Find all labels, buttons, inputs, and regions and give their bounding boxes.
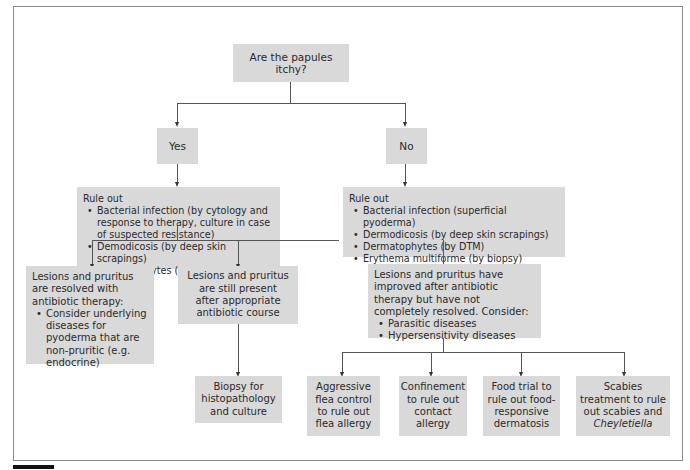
- outcome-improved-list: Parasitic diseases Hypersensitivity dise…: [374, 318, 535, 343]
- list-item: Hypersensitivity diseases: [388, 330, 535, 342]
- root-question: Are the papules itchy?: [233, 51, 349, 75]
- no-ruleout-heading: Rule out: [349, 193, 559, 205]
- connector: [443, 338, 444, 352]
- no-label: No: [399, 140, 413, 152]
- connector: [177, 164, 178, 183]
- no-ruleout-box: Rule out Bacterial infection (superficia…: [343, 187, 565, 257]
- arrow-icon: [403, 122, 407, 127]
- action-scabies-italic: Cheyletiella: [594, 418, 653, 429]
- action-food-text: Food trial to rule out food-responsive d…: [487, 381, 556, 430]
- list-item: Bacterial infection (by cytology and res…: [97, 205, 274, 241]
- outcome-improved-text: Lesions and pruritus have improved after…: [374, 269, 535, 318]
- connector: [342, 352, 625, 353]
- no-box: No: [386, 128, 427, 164]
- connector: [92, 240, 93, 265]
- connector: [624, 352, 625, 373]
- action-biopsy-text: Biopsy for histopathology and culture: [199, 381, 278, 418]
- outcome-resolved-text: Lesions and pruritus are resolved with a…: [32, 271, 148, 308]
- yes-box: Yes: [157, 128, 198, 164]
- connector: [342, 352, 343, 373]
- root-question-box: Are the papules itchy?: [233, 44, 349, 82]
- footer-bar: [13, 465, 54, 469]
- yes-ruleout-box: Rule out Bacterial infection (by cytolog…: [77, 187, 280, 269]
- connector: [238, 240, 239, 265]
- outcome-resolved-list: Consider underlying diseases for pyoderm…: [32, 308, 148, 369]
- outcome-still-present-box: Lesions and pruritus are still present a…: [178, 266, 298, 324]
- yes-ruleout-heading: Rule out: [83, 193, 274, 205]
- connector: [238, 324, 239, 373]
- connector: [177, 103, 178, 123]
- outcome-still-present-text: Lesions and pruritus are still present a…: [186, 270, 290, 319]
- arrow-icon: [175, 122, 179, 127]
- connector: [405, 103, 406, 123]
- connector: [431, 352, 432, 373]
- outcome-resolved-box: Lesions and pruritus are resolved with a…: [26, 266, 154, 364]
- action-flea-box: Aggressive flea control to rule out flea…: [307, 376, 380, 436]
- connector: [177, 225, 178, 240]
- connector: [443, 240, 444, 265]
- list-item: Bacterial infection (superficial pyoderm…: [363, 205, 559, 229]
- connector: [405, 164, 406, 183]
- action-flea-text: Aggressive flea control to rule out flea…: [311, 381, 376, 430]
- connector: [290, 82, 291, 103]
- list-item: Parasitic diseases: [388, 318, 535, 330]
- action-biopsy-box: Biopsy for histopathology and culture: [195, 376, 282, 423]
- list-item: Demodicosis (by deep skin scrapings): [97, 241, 274, 265]
- action-confinement-box: Confinement to rule out contact allergy: [399, 376, 467, 436]
- connector: [521, 352, 522, 373]
- list-item: Consider underlying diseases for pyoderm…: [46, 308, 148, 369]
- outcome-improved-box: Lesions and pruritus have improved after…: [368, 264, 541, 338]
- yes-label: Yes: [169, 140, 186, 152]
- action-food-box: Food trial to rule out food-responsive d…: [483, 376, 560, 436]
- connector: [92, 240, 339, 241]
- action-scabies-prefix: Scabies treatment to rule out scabies an…: [580, 381, 666, 417]
- list-item: Dermatophytes (by DTM): [363, 241, 559, 253]
- action-scabies-text: Scabies treatment to rule out scabies an…: [580, 381, 666, 430]
- connector: [177, 103, 405, 104]
- list-item: Dermodicosis (by deep skin scrapings): [363, 229, 559, 241]
- action-confinement-text: Confinement to rule out contact allergy: [401, 381, 465, 430]
- action-scabies-box: Scabies treatment to rule out scabies an…: [576, 376, 670, 436]
- no-ruleout-list: Bacterial infection (superficial pyoderm…: [349, 205, 559, 265]
